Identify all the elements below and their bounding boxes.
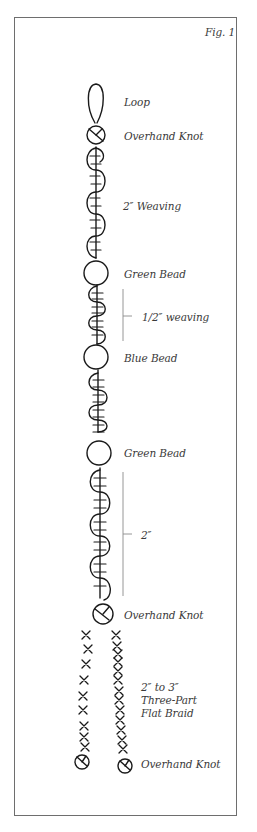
label-braid-length: 2″ to 3″: [141, 681, 179, 693]
label-overhand-knot-bottom: Overhand Knot: [141, 758, 220, 770]
overhand-knot-icon: [75, 755, 89, 769]
label-green-bead-1: Green Bead: [124, 268, 186, 280]
overhand-knot-icon: [118, 759, 132, 773]
label-overhand-knot-top: Overhand Knot: [124, 130, 203, 142]
label-braid-style: Flat Braid: [141, 707, 194, 719]
label-braid-type: Three-Part: [141, 694, 197, 706]
overhand-knot-icon: [93, 604, 113, 624]
overhand-knot-icon: [87, 126, 105, 144]
blue-bead-icon: [84, 345, 108, 369]
label-overhand-knot-mid: Overhand Knot: [124, 609, 203, 621]
weaving-icon: [90, 468, 110, 600]
label-loop: Loop: [124, 96, 150, 108]
braid-right-strand: [112, 631, 127, 753]
label-green-bead-2: Green Bead: [124, 447, 186, 459]
braid-left-strand: [79, 631, 92, 751]
label-blue-bead: Blue Bead: [124, 352, 177, 364]
loop-icon: [88, 84, 103, 123]
green-bead-icon: [84, 261, 108, 285]
measure-bracket-two-inch: [123, 472, 132, 596]
measure-bracket-half-inch: [123, 289, 132, 341]
weaving-icon: [89, 285, 106, 344]
braid-diagram: [0, 0, 257, 832]
label-weaving-half-inch: 1/2″ weaving: [142, 311, 209, 323]
figure-title: Fig. 1: [205, 26, 235, 38]
green-bead-icon: [87, 441, 111, 465]
weaving-icon: [89, 370, 107, 432]
label-weaving-2in: 2″ Weaving: [123, 200, 181, 212]
weaving-icon: [87, 147, 105, 258]
label-weaving-2in-b: 2″: [141, 529, 151, 541]
